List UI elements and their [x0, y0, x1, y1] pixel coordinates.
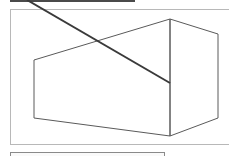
box-diagram: [0, 0, 229, 156]
box-right-face: [170, 19, 218, 136]
box-front-face: [34, 19, 170, 136]
diagonal-line: [27, 0, 170, 83]
bottom-bar: [10, 152, 165, 156]
